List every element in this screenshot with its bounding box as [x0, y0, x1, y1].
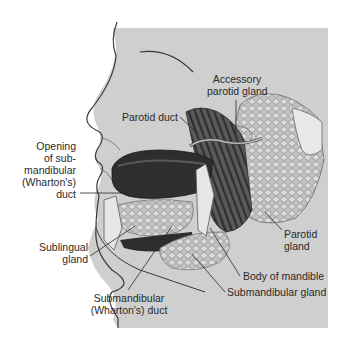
- label-line: gland: [284, 240, 324, 252]
- label-line: Parotid: [284, 228, 324, 240]
- label-body-of-mandible: Body of mandible: [243, 270, 324, 282]
- label-line: Accessory: [207, 73, 267, 85]
- label-line: gland: [28, 253, 88, 265]
- label-line: Opening: [14, 140, 76, 152]
- label-line: Parotid duct: [118, 111, 178, 123]
- label-line: mandibular: [14, 164, 76, 176]
- label-opening-submandibular-duct: Opening of sub- mandibular (Wharton's) d…: [14, 140, 76, 200]
- label-accessory-parotid-gland: Accessory parotid gland: [207, 73, 267, 97]
- label-line: of sub-: [14, 152, 76, 164]
- label-submandibular-gland: Submandibular gland: [227, 286, 326, 298]
- label-line: (Wharton's) duct: [88, 304, 170, 316]
- label-line: Body of mandible: [243, 270, 324, 282]
- label-sublingual-gland: Sublingual gland: [28, 241, 88, 265]
- label-line: Submandibular: [88, 292, 170, 304]
- label-parotid-duct: Parotid duct: [118, 111, 178, 123]
- label-line: duct: [14, 188, 76, 200]
- label-line: Sublingual: [28, 241, 88, 253]
- label-line: (Wharton's): [14, 176, 76, 188]
- label-line: Submandibular gland: [227, 286, 326, 298]
- label-line: parotid gland: [207, 85, 267, 97]
- label-submandibular-duct: Submandibular (Wharton's) duct: [88, 292, 170, 316]
- label-parotid-gland: Parotid gland: [284, 228, 324, 252]
